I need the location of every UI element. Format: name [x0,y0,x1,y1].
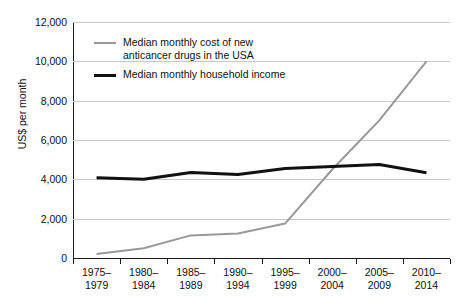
x-tick-mark [356,259,357,264]
series-line [97,61,427,254]
y-tick-label: 0 [61,252,67,264]
x-axis-tick-labels: 1975–19791980–19841985–19891990–19941995… [73,266,450,300]
x-axis-ticks [73,259,450,265]
x-tick-label: 1985–1989 [176,266,205,292]
x-tick-label: 1990–1994 [223,266,252,292]
y-tick-label: 8,000 [41,95,67,107]
x-tick-mark [167,259,168,264]
legend-label: Median monthly household income [123,68,285,81]
x-tick-mark [214,259,215,264]
x-tick-label: 2005–2009 [365,266,394,292]
x-tick-label: 1995–1999 [270,266,299,292]
y-tick-label: 4,000 [41,173,67,185]
x-tick-mark [120,259,121,264]
x-tick-label: 2000–2004 [318,266,347,292]
legend-swatch [94,42,116,44]
legend-label: Median monthly cost of new anticancer dr… [123,36,254,62]
x-tick-mark [450,259,451,264]
y-axis-tick-labels: 12,00010,0008,0006,0004,0002,0000 [0,22,67,258]
chart-figure: US$ per month 12,00010,0008,0006,0004,00… [0,0,460,300]
y-tick-label: 10,000 [35,55,67,67]
y-tick-label: 6,000 [41,134,67,146]
legend-swatch [94,74,116,77]
legend-entry: Median monthly household income [94,68,344,81]
x-tick-mark [309,259,310,264]
x-tick-label: 2010–2014 [412,266,441,292]
x-tick-mark [73,259,74,264]
chart-legend: Median monthly cost of new anticancer dr… [94,36,344,87]
x-tick-label: 1980–1984 [129,266,158,292]
legend-entry: Median monthly cost of new anticancer dr… [94,36,344,62]
x-tick-mark [403,259,404,264]
series-line [97,165,427,180]
x-tick-label: 1975–1979 [82,266,111,292]
y-tick-label: 2,000 [41,213,67,225]
y-tick-label: 12,000 [35,16,67,28]
x-tick-mark [262,259,263,264]
